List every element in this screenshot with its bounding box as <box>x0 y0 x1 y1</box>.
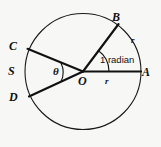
geometry-figure: B A C D S O r r θ 1 radian <box>0 0 161 147</box>
label-point-b: B <box>112 11 120 23</box>
angle-arc-theta <box>61 63 63 82</box>
label-center-o: O <box>78 75 87 87</box>
label-angle-theta: θ <box>53 66 59 77</box>
label-angle-one-radian: 1 radian <box>100 55 134 65</box>
label-point-d: D <box>9 91 18 103</box>
label-radius-horizontal: r <box>105 77 109 86</box>
label-arc-s: S <box>8 65 15 77</box>
label-radius-b: r <box>131 36 135 45</box>
label-point-a: A <box>142 66 150 78</box>
label-point-c: C <box>9 40 17 52</box>
